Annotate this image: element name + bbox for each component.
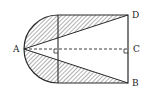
label-d: D (132, 10, 139, 20)
geometry-diagram: A D C B (0, 0, 150, 93)
label-b: B (132, 78, 139, 88)
label-a: A (12, 44, 20, 54)
right-angle-marker-center (54, 49, 58, 53)
label-c: C (133, 44, 140, 54)
